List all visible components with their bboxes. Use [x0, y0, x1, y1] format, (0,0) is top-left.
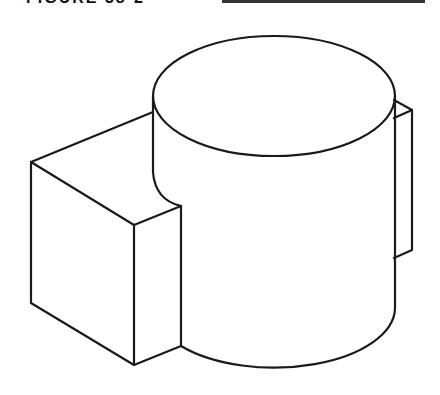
- left-block: [31, 112, 181, 365]
- cylinder: [153, 36, 395, 368]
- isometric-drawing: [0, 0, 440, 395]
- left-block-top: [31, 112, 181, 225]
- right-block: [394, 100, 412, 258]
- cylinder-top-ellipse: [153, 36, 395, 156]
